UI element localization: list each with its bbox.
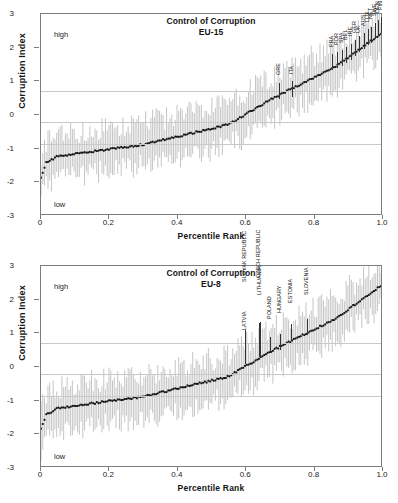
label-leader-line	[245, 348, 246, 364]
label-leader-line	[332, 54, 333, 70]
country-label-slovak-republic: SLOVAK REPUBLIC	[241, 231, 247, 282]
country-label-poland: POLAND	[266, 296, 272, 319]
x-tick-label: 0.2	[103, 470, 114, 479]
x-tick-label: 0	[38, 470, 42, 479]
x-tick-mark	[382, 467, 383, 471]
x-axis-label-eu8: Percentile Rank	[40, 483, 382, 493]
label-leader-line	[260, 322, 261, 356]
y-tick-mark	[34, 181, 39, 182]
label-leader-line	[351, 44, 352, 60]
x-tick-mark	[177, 215, 178, 219]
country-label-estonia: ESTONIA	[287, 279, 293, 303]
y-tick-label: 0	[0, 110, 14, 119]
label-leader-line	[368, 29, 369, 45]
x-tick-mark	[314, 467, 315, 471]
x-tick-mark	[40, 215, 41, 219]
y-tick-label: 3	[0, 9, 14, 18]
y-tick-label: 3	[0, 261, 14, 270]
x-tick-label: 0.4	[171, 218, 182, 227]
country-label-slovenia: SLOVENIA	[303, 267, 309, 295]
x-tick-mark	[108, 215, 109, 219]
chart-title-main-eu15: Control of Corruption	[167, 16, 256, 26]
y-tick-label: 2	[0, 42, 14, 51]
y-tick-label: -3	[0, 211, 14, 220]
y-axis-label-eu15: Corruption Index	[17, 11, 27, 131]
label-leader-line	[337, 52, 338, 68]
y-tick-label: -2	[0, 177, 14, 186]
gridline-2	[41, 396, 381, 397]
scatter-svg-eu8	[41, 266, 381, 466]
y-tick-label: -3	[0, 463, 14, 472]
country-label-fin: FIN	[377, 1, 383, 10]
label-leader-line	[342, 50, 343, 66]
gridline-0	[41, 91, 381, 92]
label-leader-line	[378, 20, 379, 36]
label-leader-line	[279, 83, 280, 99]
y-tick-mark	[34, 433, 39, 434]
x-tick-mark	[40, 467, 41, 471]
x-tick-label: 0.6	[240, 218, 251, 227]
gridline-1	[41, 122, 381, 123]
gridline-0	[41, 343, 381, 344]
country-label-lithuania: LITHUANIA	[256, 266, 262, 295]
label-leader-line	[359, 36, 360, 52]
x-tick-mark	[314, 215, 315, 219]
x-tick-label: 0	[38, 218, 42, 227]
x-tick-label: 1.0	[376, 470, 387, 479]
x-tick-mark	[108, 467, 109, 471]
chart-panel-eu8: Corruption Index Control of Corruption E…	[0, 252, 398, 503]
label-leader-line	[375, 23, 376, 39]
x-tick-label: 0.4	[171, 470, 182, 479]
y-tick-mark	[34, 332, 39, 333]
y-tick-label: 1	[0, 328, 14, 337]
chart-title-sub-eu8: EU-8	[40, 279, 382, 290]
label-leader-line	[280, 334, 281, 350]
low-annotation-eu8: low	[54, 452, 65, 461]
label-leader-line	[291, 324, 292, 340]
country-label-hungary: HUNGARY	[276, 285, 282, 313]
x-tick-mark	[245, 215, 246, 219]
country-label-latvia: LATVIA	[241, 311, 247, 330]
y-tick-mark	[34, 148, 39, 149]
x-tick-label: 0.2	[103, 218, 114, 227]
label-leader-line	[307, 319, 308, 335]
x-axis-label-eu15: Percentile Rank	[40, 231, 382, 241]
figure-page: Corruption Index Control of Corruption E…	[0, 0, 398, 503]
x-tick-label: 0.6	[240, 470, 251, 479]
label-leader-line	[355, 40, 356, 56]
country-label-gre: GRE	[275, 63, 281, 75]
y-tick-label: -1	[0, 395, 14, 404]
y-tick-label: 1	[0, 76, 14, 85]
high-annotation-eu8: high	[54, 282, 68, 291]
y-tick-mark	[34, 366, 39, 367]
low-annotation-eu15: low	[54, 200, 65, 209]
gridline-1	[41, 374, 381, 375]
label-leader-line	[292, 81, 293, 97]
label-leader-line	[270, 337, 271, 353]
x-tick-mark	[177, 467, 178, 471]
y-tick-label: 0	[0, 362, 14, 371]
country-label-ita: ITA	[288, 66, 294, 74]
x-tick-label: 0.8	[308, 218, 319, 227]
y-tick-label: -2	[0, 429, 14, 438]
y-tick-mark	[34, 299, 39, 300]
x-tick-mark	[382, 215, 383, 219]
chart-panel-eu15: Corruption Index Control of Corruption E…	[0, 0, 398, 251]
y-axis-label-eu8: Corruption Index	[17, 263, 27, 383]
high-annotation-eu15: high	[54, 30, 68, 39]
label-leader-line	[381, 17, 382, 33]
chart-title-eu8: Control of Corruption EU-8	[40, 268, 382, 289]
y-tick-mark	[34, 400, 39, 401]
country-label-uk: UK	[355, 25, 361, 33]
label-leader-line	[346, 47, 347, 63]
y-tick-label: 2	[0, 294, 14, 303]
y-tick-mark	[34, 47, 39, 48]
x-tick-mark	[245, 467, 246, 471]
label-leader-line	[364, 33, 365, 49]
y-tick-mark	[34, 80, 39, 81]
plot-area-eu8	[40, 265, 382, 467]
x-tick-label: 1.0	[376, 218, 387, 227]
label-leader-line	[371, 27, 372, 43]
x-tick-label: 0.8	[308, 470, 319, 479]
chart-title-eu15: Control of Corruption EU-15	[40, 16, 382, 37]
